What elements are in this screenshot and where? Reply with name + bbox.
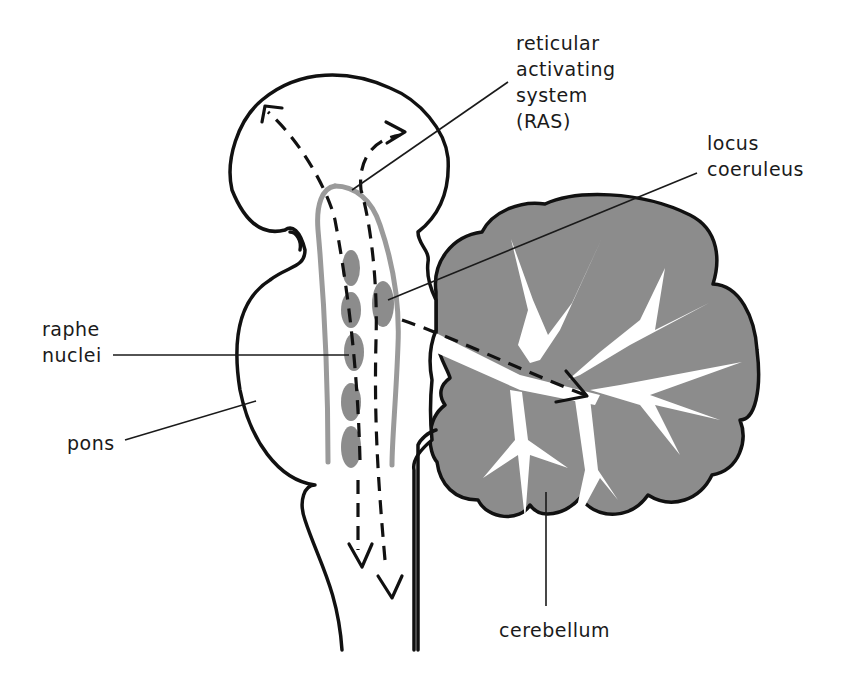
brainstem-diagram: reticular activating system (RAS) locus … (0, 0, 842, 688)
brainstem-outline (230, 75, 448, 650)
leader-pons (125, 401, 256, 440)
brainstem (230, 75, 448, 650)
label-cerebellum: cerebellum (499, 619, 610, 641)
label-pons: pons (67, 432, 115, 454)
cerebellum (430, 195, 759, 530)
label-locus-coeruleus: locus coeruleus (707, 132, 804, 180)
raphe-nucleus-2 (341, 292, 361, 328)
label-ras: reticular activating system (RAS) (516, 32, 622, 132)
medulla-right-border (418, 430, 436, 650)
label-raphe-nuclei: raphe nuclei (42, 318, 106, 366)
